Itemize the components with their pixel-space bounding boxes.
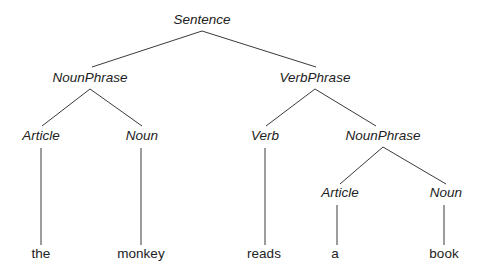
nounphrase2-to-noun [383,147,446,184]
terminal-word-layer: the monkey reads a book [32,246,459,261]
terminal-the: the [32,246,51,261]
verbphrase-to-nounphrase [315,89,376,126]
node-nounphrase-subject: NounPhrase [52,70,127,85]
verbphrase-to-verb [266,89,315,126]
node-nounphrase-object: NounPhrase [345,128,420,143]
nounphrase-to-noun [90,89,142,126]
node-verbphrase: VerbPhrase [280,70,351,85]
sentence-to-verbphrase [202,31,316,67]
terminal-book: book [429,246,459,261]
parse-tree-canvas: Sentence NounPhrase VerbPhrase Article N… [0,0,479,272]
terminal-reads: reads [247,246,281,261]
node-sentence: Sentence [173,12,230,27]
terminal-monkey: monkey [117,246,165,261]
terminal-a: a [331,246,339,261]
node-article-left: Article [21,128,60,143]
nounphrase-to-article [42,89,90,126]
node-noun-right: Noun [430,185,462,200]
sentence-to-nounphrase [92,31,202,67]
node-article-right: Article [320,185,359,200]
nounphrase2-to-article [340,147,383,184]
node-noun-left: Noun [126,128,158,143]
parse-tree-figure: Sentence NounPhrase VerbPhrase Article N… [0,0,479,272]
nonterminal-node-layer: Sentence NounPhrase VerbPhrase Article N… [21,12,462,200]
node-verb: Verb [251,128,280,143]
